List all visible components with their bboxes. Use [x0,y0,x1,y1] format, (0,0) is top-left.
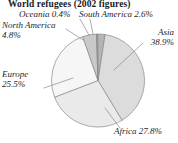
pie-label-oceania-text: Oceania 0.4% [19,10,71,20]
pie-label-africa-text: Africa 27.8% [114,127,162,137]
pie-label-south-america-text: South America 2.6% [79,10,153,20]
pie-label-north-america-value: 4.8% [2,31,56,41]
pie-label-asia: Asia 38.9% [151,28,174,47]
leader-line-south-america [90,19,93,34]
leader-line-north-america [66,29,83,40]
pie-label-oceania: Oceania 0.4% [19,10,71,20]
pie-label-europe: Europe 25.5% [2,70,28,89]
pie-label-north-america: North America 4.8% [2,21,56,40]
pie-label-europe-value: 25.5% [2,80,28,90]
pie-label-south-america: South America 2.6% [79,10,153,20]
pie-label-asia-value: 38.9% [151,38,174,48]
leader-line-oceania [80,19,89,35]
pie-chart-figure: World refugees (2002 figures) Oceania 0.… [0,0,178,143]
pie-label-africa: Africa 27.8% [114,127,162,137]
